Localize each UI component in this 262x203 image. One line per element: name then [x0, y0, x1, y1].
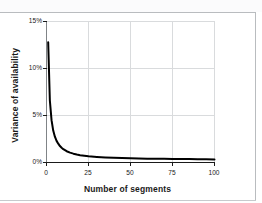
figure-top-margin: [0, 0, 262, 12]
ytick-label-5: 5%: [16, 112, 42, 119]
ytick-label-10: 10%: [16, 65, 42, 72]
xtick-label-25: 25: [75, 170, 101, 177]
y-axis-title: Variance of availability: [11, 35, 20, 155]
figure-frame-right-rule: [255, 12, 256, 201]
xtick-label-75: 75: [159, 170, 185, 177]
chart-stage: 15% 10% 5% 0% 0 25 50 75 100 Number of s…: [0, 13, 255, 200]
figure-frame-bottom-rule: [0, 200, 256, 201]
xtick-label-100: 100: [201, 170, 227, 177]
figure-container: 15% 10% 5% 0% 0 25 50 75 100 Number of s…: [0, 0, 262, 203]
ytick-label-0: 0%: [16, 159, 42, 166]
xtick-label-50: 50: [117, 170, 143, 177]
xtick-label-0: 0: [33, 170, 59, 177]
ytick-label-15: 15%: [16, 18, 42, 25]
x-axis-title: Number of segments: [0, 185, 255, 194]
